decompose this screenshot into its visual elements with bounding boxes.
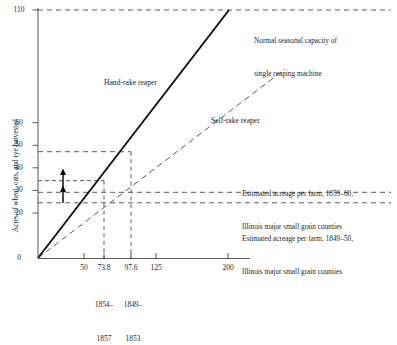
acreage-1859-note-line1: Estimated acreage per farm, 1859–60, [242, 189, 353, 200]
x-tick-label-73-8: 73.8 [90, 263, 118, 272]
normal-capacity-note-line1: Normal seasonal capacity of [254, 36, 337, 47]
y-tick-label-60: 60 [8, 118, 30, 127]
x-axis-ticks [84, 253, 228, 259]
measure-arrow-lower [60, 186, 66, 204]
period-label-1854-1857: 1854– 1857 [88, 277, 120, 345]
period-label-1849-1853: 1849– 1853 [117, 277, 149, 345]
y-tick-label-20: 20 [8, 208, 30, 217]
period-label-1849-line1: 1849– [117, 299, 149, 310]
acreage-1849-note: Estimated acreage per farm, 1849–50, Ill… [242, 212, 353, 300]
normal-capacity-note-line2: single reaping machine [254, 69, 337, 80]
self-rake-reaper-label: Self-rake reaper [211, 116, 260, 125]
acreage-1849-note-line2: Illinois major small grain counties [242, 267, 353, 278]
x-tick-label-125: 125 [144, 263, 168, 272]
hand-rake-reaper-label: Hand-rake reaper [104, 78, 157, 87]
y-axis-ticks [33, 10, 39, 213]
period-label-1854-line1: 1854– [88, 299, 120, 310]
acreage-1849-note-line1: Estimated acreage per farm, 1849–50, [242, 234, 353, 245]
normal-capacity-note: Normal seasonal capacity of single reapi… [254, 14, 337, 102]
y-tick-label-110: 110 [8, 5, 30, 14]
y-tick-label-0: 0 [8, 253, 30, 262]
period-label-1854-line2: 1857 [88, 333, 120, 344]
x-tick-label-200: 200 [216, 263, 240, 272]
y-tick-label-50: 50 [8, 140, 30, 149]
period-label-1849-line2: 1853 [117, 333, 149, 344]
x-tick-label-97-6: 97.6 [117, 263, 145, 272]
y-tick-label-40: 40 [8, 163, 30, 172]
y-tick-label-30: 30 [8, 185, 30, 194]
